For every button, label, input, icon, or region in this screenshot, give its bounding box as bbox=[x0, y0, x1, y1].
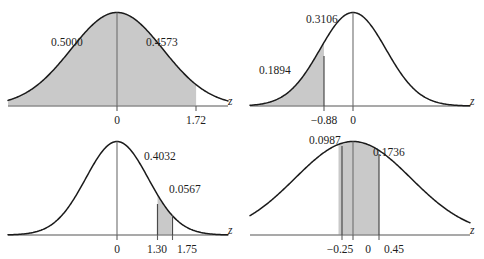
panel-top-right: −0.88 0 0.3106 0.1894 z bbox=[242, 0, 484, 130]
shaded-area-group bbox=[8, 13, 196, 107]
shaded-area-group bbox=[158, 195, 172, 235]
panel-top-left: 0 1.72 0.5000 0.4573 z bbox=[0, 0, 242, 130]
normal-curve bbox=[250, 13, 470, 106]
normal-curve-figure-grid: 0 1.72 0.5000 0.4573 z −0.88 0 0.3106 0.… bbox=[0, 0, 484, 259]
panel-bottom-right-svg: −0.25 0 0.45 0.0987 0.1736 z bbox=[242, 129, 484, 259]
area-label-left: 0.0987 bbox=[309, 134, 341, 146]
area-label-right: 0.4573 bbox=[146, 36, 178, 48]
area-label-inner: 0.4032 bbox=[144, 150, 176, 162]
area-label-right: 0.1736 bbox=[373, 146, 405, 158]
area-label-left: 0.5000 bbox=[51, 36, 83, 48]
area-label-tail: 0.1894 bbox=[259, 64, 291, 76]
tick-label-0-45: 0.45 bbox=[384, 243, 404, 255]
area-label-band: 0.0567 bbox=[169, 183, 201, 195]
tick-label-neg-0-88: −0.88 bbox=[311, 114, 338, 126]
tick-label-0: 0 bbox=[114, 114, 120, 126]
panel-top-left-svg: 0 1.72 0.5000 0.4573 z bbox=[0, 0, 242, 130]
tick-label-1-75: 1.75 bbox=[177, 243, 197, 255]
tick-label-0: 0 bbox=[365, 243, 371, 255]
tick-label-1-30: 1.30 bbox=[147, 243, 167, 255]
tick-label-neg-0-25: −0.25 bbox=[327, 243, 354, 255]
axis-label-z: z bbox=[227, 224, 233, 236]
panel-bottom-left: 1.30 0 1.75 0.4032 0.0567 z bbox=[0, 129, 242, 259]
area-label-inner: 0.3106 bbox=[306, 13, 338, 25]
tick-label-0: 0 bbox=[114, 243, 120, 255]
panel-bottom-right: −0.25 0 0.45 0.0987 0.1736 z bbox=[242, 129, 484, 259]
axis-label-z: z bbox=[227, 95, 233, 107]
axis-label-z: z bbox=[469, 224, 475, 236]
tick-label-1-72: 1.72 bbox=[186, 114, 206, 126]
tick-label-0: 0 bbox=[350, 114, 356, 126]
panel-top-right-svg: −0.88 0 0.3106 0.1894 z bbox=[242, 0, 484, 130]
panel-bottom-left-svg: 1.30 0 1.75 0.4032 0.0567 z bbox=[0, 129, 242, 259]
shaded-area bbox=[158, 195, 172, 235]
axis-label-z: z bbox=[469, 95, 475, 107]
shaded-area bbox=[8, 13, 196, 107]
